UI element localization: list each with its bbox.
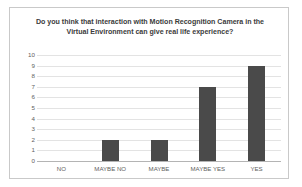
x-axis-tick-label: YES	[250, 166, 262, 172]
y-axis-tick-label: 8	[22, 73, 35, 79]
y-axis-tick-label: 5	[22, 105, 35, 111]
y-axis-tick-label: 9	[22, 62, 35, 68]
y-axis-tick-label: 7	[22, 84, 35, 90]
x-axis: NOMAYBE NOMAYBEMAYBE YESYES	[37, 166, 281, 176]
x-axis-tick-label: MAYBE	[149, 166, 170, 172]
y-axis: 109876543210	[22, 55, 35, 161]
y-axis-tick-label: 2	[22, 137, 35, 143]
x-axis-tick-label: NO	[57, 166, 66, 172]
chart-title-line-2: Virtual Environment can give real life e…	[28, 27, 272, 37]
chart-container: Do you think that interaction with Motio…	[9, 7, 289, 179]
chart-title-line-1: Do you think that interaction with Motio…	[28, 17, 272, 27]
y-axis-tick-label: 10	[22, 52, 35, 58]
y-axis-tick-label: 1	[22, 147, 35, 153]
x-axis-tick-label: MAYBE NO	[94, 166, 126, 172]
axis-baseline	[37, 161, 281, 162]
bar	[248, 66, 265, 161]
y-axis-tick-label: 0	[22, 158, 35, 164]
x-axis-tick-label: MAYBE YES	[190, 166, 225, 172]
y-axis-tick-label: 6	[22, 94, 35, 100]
bar	[199, 87, 216, 161]
chart-title: Do you think that interaction with Motio…	[28, 17, 272, 38]
y-axis-tick-label: 4	[22, 115, 35, 121]
bar-series	[37, 55, 281, 161]
y-axis-tick-label: 3	[22, 126, 35, 132]
bar	[102, 140, 119, 161]
bar	[151, 140, 168, 161]
